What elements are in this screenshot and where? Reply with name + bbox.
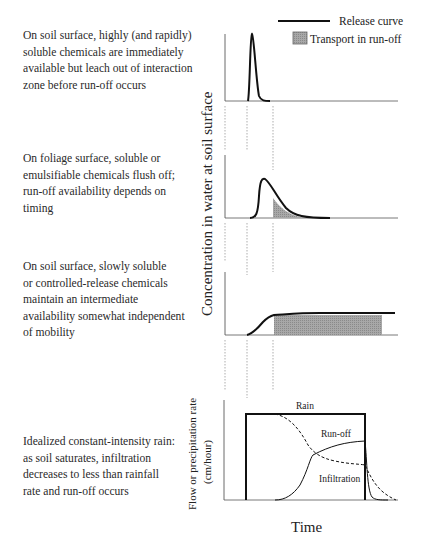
concentration-axis-label: Concentration in water at soil surface [199, 91, 215, 316]
infiltration-label: Infiltration [319, 474, 360, 484]
panel-slow-release [225, 272, 398, 335]
legend-shade-swatch [293, 32, 307, 44]
runoff-curve [275, 441, 388, 500]
figure: Release curve Transport in run-off Conce… [0, 0, 421, 541]
release-curve-1 [248, 34, 270, 101]
time-guides [225, 106, 273, 398]
legend: Release curve Transport in run-off [278, 15, 403, 46]
infiltration-curve [275, 414, 396, 500]
rain-label: Rain [296, 401, 314, 411]
rain-curve [246, 414, 365, 500]
release-curve-2 [250, 179, 330, 218]
panel-foliage [225, 155, 398, 218]
legend-transport-label: Transport in run-off [310, 33, 402, 46]
legend-release-label: Release curve [339, 15, 403, 27]
panel-rain: Rain Run-off Infiltration [224, 400, 398, 500]
runoff-shade-3 [274, 315, 382, 335]
time-axis-label: Time [291, 519, 322, 535]
flow-axis-label-2: (cm/hour) [201, 440, 214, 484]
runoff-label: Run-off [321, 429, 352, 439]
flow-axis-label-1: Flow or precipitation rate [186, 398, 198, 510]
